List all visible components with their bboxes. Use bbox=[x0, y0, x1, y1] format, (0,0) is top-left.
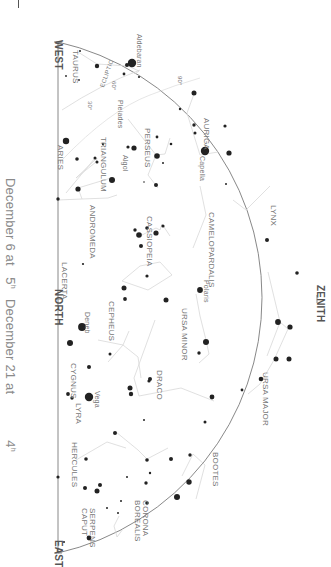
direction-east: EAST bbox=[53, 540, 64, 567]
caption-sup-1: h bbox=[10, 285, 17, 289]
caption-date-2: December 21 at bbox=[3, 299, 18, 394]
constellation-serpens-caput: SERPENS CAPUT bbox=[80, 508, 96, 532]
constellation-cepheus: CEPHEUS bbox=[107, 301, 116, 341]
constellation-ursa-major: URSA MAJOR bbox=[261, 372, 270, 426]
constellation-lyra: LYRA bbox=[74, 403, 83, 424]
constellation-ursa-minor: URSA MINOR bbox=[180, 308, 189, 361]
caption-line-1: December 6 at 5h bbox=[3, 178, 18, 289]
constellation-draco: DRACO bbox=[155, 370, 164, 400]
constellation-perseus: PERSEUS bbox=[143, 128, 152, 168]
caption-time-2: 4 bbox=[3, 440, 18, 447]
caption-line-2: December 21 at4h bbox=[3, 299, 18, 452]
sky-boundary-arc bbox=[58, 42, 262, 553]
constellation-andromeda: ANDROMEDA bbox=[88, 205, 97, 259]
star-label-aldebaran: Aldebaran bbox=[136, 34, 143, 68]
vega-star bbox=[85, 393, 93, 401]
star-label-vega: Vega bbox=[94, 391, 101, 408]
constellation-bootes: BOOTES bbox=[211, 452, 220, 487]
horizon-frame bbox=[54, 42, 317, 553]
caption-time-1: 5 bbox=[3, 277, 18, 284]
ecliptic-mark-60: 60° bbox=[111, 81, 117, 91]
aries-star bbox=[63, 138, 69, 144]
caption-date-1: December 6 at bbox=[3, 178, 18, 266]
caption-sup-2: h bbox=[10, 448, 17, 452]
constellation-auriga: AURIGA bbox=[202, 118, 211, 150]
ecliptic-mark-90: 90° bbox=[177, 76, 183, 86]
cepheus-star bbox=[122, 286, 127, 291]
star-label-deneb: Deneb bbox=[84, 312, 91, 334]
constellation-taurus: TAURUS bbox=[71, 50, 80, 84]
constellation-corona-borealis: CORONA BOREALIS bbox=[133, 500, 149, 520]
constellation-cassiopeia: CASSIOPEIA bbox=[145, 216, 154, 266]
constellation-lacerta: LACERTA bbox=[60, 262, 69, 300]
constellation-lynx: LYNX bbox=[269, 205, 278, 226]
constellation-triangulum: TRIANGULUM bbox=[99, 137, 108, 192]
aldebaran-star bbox=[128, 59, 136, 67]
star-label-algol: Algol bbox=[122, 155, 129, 172]
constellation-camelopardalis: CAMELOPARDALIS bbox=[207, 212, 216, 288]
star-label-pleiades: Pleiades bbox=[117, 100, 124, 128]
ecliptic-mark-30: 30° bbox=[87, 101, 93, 111]
constellation-lines bbox=[58, 52, 288, 537]
constellation-aries: ARIES bbox=[56, 145, 65, 170]
constellation-hercules: HERCULES bbox=[70, 442, 79, 487]
star-label-capella: Capella bbox=[199, 156, 206, 181]
constellation-cygnus: CYGNUS bbox=[69, 363, 78, 398]
direction-zenith: ZENITH bbox=[315, 285, 326, 322]
direction-west: WEST bbox=[53, 40, 64, 70]
